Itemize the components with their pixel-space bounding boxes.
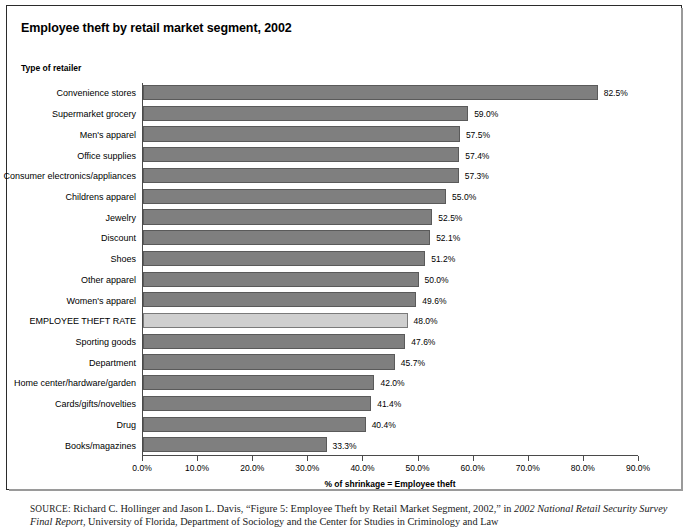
bar	[143, 106, 468, 121]
bar-category-label: Shoes	[110, 254, 136, 264]
bar	[143, 272, 419, 287]
bar-category-label: Office supplies	[77, 151, 136, 161]
bar-value-label: 49.6%	[422, 296, 446, 306]
figure-frame: Employee theft by retail market segment,…	[6, 5, 682, 490]
bar-row: Drug40.4%	[142, 415, 638, 436]
bar-row: Department45.7%	[142, 352, 638, 373]
x-axis-tick	[197, 456, 198, 461]
bar-row: Childrens apparel55.0%	[142, 187, 638, 208]
bar-category-label: EMPLOYEE THEFT RATE	[29, 316, 136, 326]
bar-value-label: 47.6%	[411, 337, 435, 347]
bar-category-label: Jewelry	[105, 213, 136, 223]
bar-value-label: 33.3%	[333, 441, 357, 451]
source-italic-a: 2002 National Retail Security Survey	[514, 503, 667, 514]
bar-row: EMPLOYEE THEFT RATE48.0%	[142, 311, 638, 332]
x-axis-tick	[142, 456, 143, 461]
source-italic-b: Final Report	[30, 516, 83, 527]
bar-value-label: 51.2%	[431, 254, 455, 264]
bar-category-label: Home center/hardware/garden	[14, 378, 136, 388]
bar-value-label: 45.7%	[401, 358, 425, 368]
bar-value-label: 41.4%	[377, 399, 401, 409]
x-axis-tick-label: 60.0%	[450, 463, 496, 473]
bar-row: Shoes51.2%	[142, 249, 638, 270]
bar-category-label: Supermarket grocery	[52, 109, 136, 119]
bar-value-label: 42.0%	[380, 378, 404, 388]
value-axis-title: % of shrinkage = Employee theft	[142, 479, 638, 489]
bar	[143, 417, 366, 432]
bar-row: Office supplies57.4%	[142, 145, 638, 166]
x-axis-tick-label: 20.0%	[229, 463, 275, 473]
bar-value-label: 52.5%	[438, 213, 462, 223]
bar-category-label: Childrens apparel	[65, 192, 136, 202]
bar	[143, 189, 446, 204]
bar	[143, 313, 408, 328]
bar	[143, 147, 459, 162]
bar-value-label: 59.0%	[474, 109, 498, 119]
category-axis-title: Type of retailer	[21, 63, 81, 73]
bar-category-label: Department	[89, 358, 136, 368]
source-text-b: , University of Florida, Department of S…	[83, 516, 499, 527]
bar	[143, 230, 430, 245]
bar	[143, 437, 327, 452]
bar-row: Women's apparel49.6%	[142, 290, 638, 311]
bar-category-label: Sporting goods	[75, 337, 136, 347]
bar	[143, 396, 371, 411]
bar-category-label: Drug	[116, 420, 136, 430]
x-axis-tick	[528, 456, 529, 461]
source-text-a: Richard C. Hollinger and Jason L. Davis,…	[71, 503, 514, 514]
x-axis-tick	[252, 456, 253, 461]
source-kicker: SOURCE:	[30, 504, 71, 514]
x-axis-tick-label: 70.0%	[505, 463, 551, 473]
bar-value-label: 40.4%	[372, 420, 396, 430]
bar	[143, 85, 598, 100]
bar-row: Discount52.1%	[142, 228, 638, 249]
bar	[143, 168, 459, 183]
bar	[143, 334, 405, 349]
chart-plot-area: 0.0%10.0%20.0%30.0%40.0%50.0%60.0%70.0%8…	[142, 83, 638, 456]
bar-value-label: 57.4%	[465, 151, 489, 161]
bar-category-label: Discount	[101, 233, 136, 243]
x-axis-tick-label: 10.0%	[174, 463, 220, 473]
x-axis-tick	[583, 456, 584, 461]
bar-row: Home center/hardware/garden42.0%	[142, 373, 638, 394]
bar-value-label: 55.0%	[452, 192, 476, 202]
x-axis-tick	[362, 456, 363, 461]
bar-value-label: 57.3%	[465, 171, 489, 181]
x-axis-tick	[418, 456, 419, 461]
bar-row: Sporting goods47.6%	[142, 332, 638, 353]
bar-row: Consumer electronics/appliances57.3%	[142, 166, 638, 187]
bar-row: Other apparel50.0%	[142, 270, 638, 291]
source-note: SOURCE: Richard C. Hollinger and Jason L…	[30, 503, 680, 528]
bar	[143, 375, 374, 390]
bar-value-label: 48.0%	[414, 316, 438, 326]
bar-category-label: Consumer electronics/appliances	[3, 171, 136, 181]
bar-category-label: Men's apparel	[80, 130, 136, 140]
bar	[143, 126, 460, 141]
x-axis-tick	[307, 456, 308, 461]
x-axis-tick-label: 90.0%	[615, 463, 661, 473]
bar-category-label: Women's apparel	[66, 296, 136, 306]
x-axis-tick-label: 0.0%	[119, 463, 165, 473]
bar-category-label: Convenience stores	[56, 88, 136, 98]
bar-row: Jewelry52.5%	[142, 207, 638, 228]
bar-category-label: Cards/gifts/novelties	[55, 399, 136, 409]
bar-value-label: 57.5%	[466, 130, 490, 140]
bar	[143, 209, 432, 224]
x-axis-tick	[473, 456, 474, 461]
x-axis-tick-label: 50.0%	[395, 463, 441, 473]
bar-value-label: 50.0%	[425, 275, 449, 285]
x-axis-tick	[638, 456, 639, 461]
bar-row: Supermarket grocery59.0%	[142, 104, 638, 125]
bar-row: Men's apparel57.5%	[142, 124, 638, 145]
x-axis-tick-label: 40.0%	[339, 463, 385, 473]
bar-category-label: Other apparel	[81, 275, 136, 285]
bar-row: Convenience stores82.5%	[142, 83, 638, 104]
bar-row: Books/magazines33.3%	[142, 435, 638, 456]
bar-value-label: 52.1%	[436, 233, 460, 243]
bar	[143, 354, 395, 369]
bar-row: Cards/gifts/novelties41.4%	[142, 394, 638, 415]
x-axis-tick-label: 80.0%	[560, 463, 606, 473]
bar	[143, 292, 416, 307]
bar-category-label: Books/magazines	[65, 441, 136, 451]
x-axis-tick-label: 30.0%	[284, 463, 330, 473]
